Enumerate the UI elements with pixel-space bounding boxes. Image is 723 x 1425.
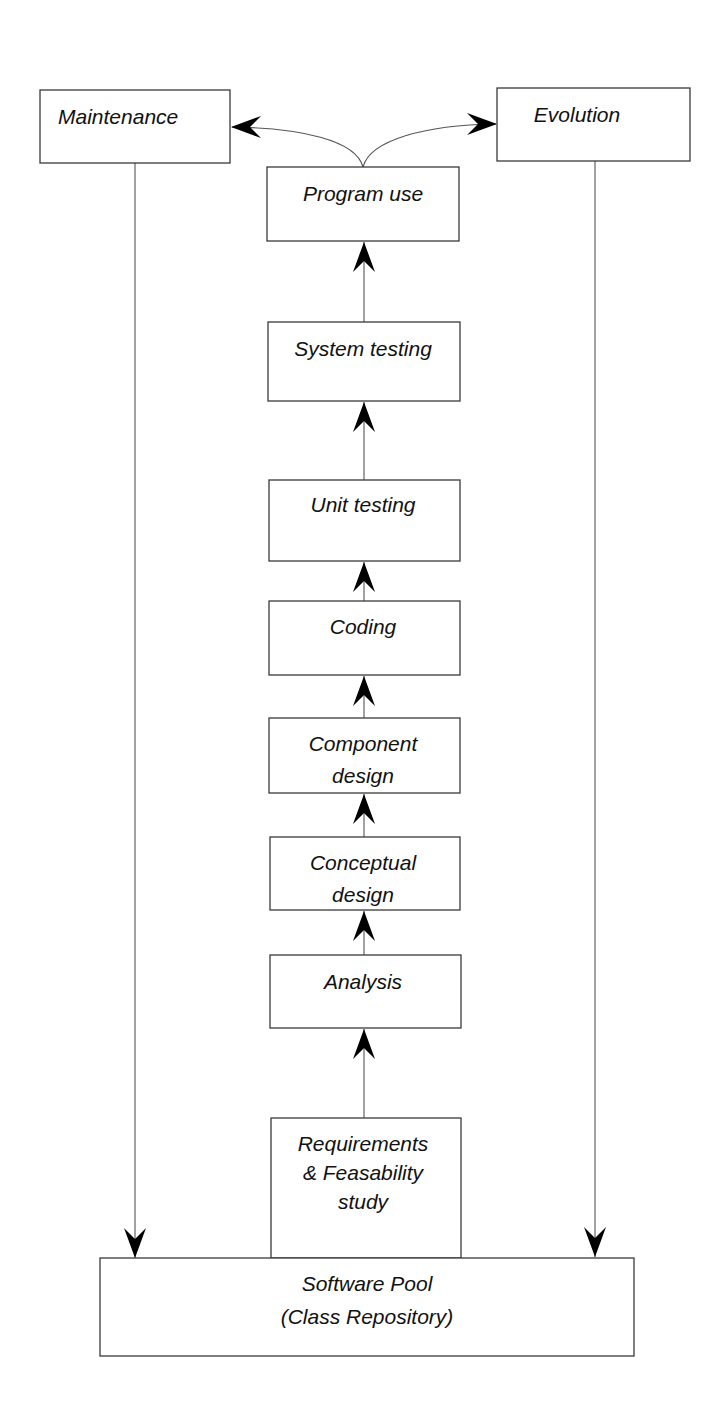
node-label: Requirements	[298, 1132, 429, 1155]
node-box	[268, 322, 460, 401]
arrowhead-icon	[467, 113, 497, 135]
edge-program-use-to-evolution	[363, 113, 497, 167]
node-maintenance: Maintenance	[40, 90, 230, 163]
node-label: Conceptual	[310, 851, 418, 874]
node-label: Analysis	[322, 970, 403, 993]
node-label: Unit testing	[310, 493, 415, 516]
edge-maintenance-to-software-pool	[124, 163, 146, 1258]
edge-requirements-to-analysis	[353, 1029, 375, 1118]
node-label: Component	[309, 732, 419, 755]
node-unit-testing: Unit testing	[269, 480, 460, 561]
node-requirements: Requirements& Feasabilitystudy	[271, 1118, 461, 1258]
node-system-testing: System testing	[268, 322, 460, 401]
node-box	[269, 601, 460, 675]
nodes-layer: MaintenanceEvolutionProgram useSystem te…	[40, 88, 690, 1356]
node-analysis: Analysis	[270, 955, 461, 1028]
node-label: System testing	[294, 337, 432, 360]
node-label: (Class Repository)	[281, 1305, 454, 1328]
edge-system-testing-to-program-use	[353, 242, 375, 322]
edges-layer	[124, 113, 606, 1258]
node-label: design	[332, 764, 394, 787]
node-label: Program use	[303, 182, 423, 205]
software-lifecycle-diagram: MaintenanceEvolutionProgram useSystem te…	[0, 0, 723, 1425]
node-label: Maintenance	[58, 105, 178, 128]
node-label: Evolution	[534, 103, 620, 126]
node-conceptual-design: Conceptualdesign	[270, 837, 460, 910]
arrowhead-icon	[231, 116, 261, 138]
edge-unit-testing-to-system-testing	[353, 402, 375, 480]
node-evolution: Evolution	[497, 88, 690, 161]
edge-evolution-to-software-pool	[584, 161, 606, 1257]
node-label: & Feasability	[303, 1161, 425, 1184]
node-label: study	[338, 1190, 390, 1213]
edge-coding-to-unit-testing	[353, 562, 375, 601]
node-label: design	[332, 883, 394, 906]
node-coding: Coding	[269, 601, 460, 675]
edge-component-design-to-coding	[353, 676, 375, 718]
edge-conceptual-design-to-component-design	[353, 794, 375, 837]
node-software-pool: Software Pool(Class Repository)	[100, 1258, 634, 1356]
node-program-use: Program use	[267, 167, 459, 241]
node-label: Coding	[330, 615, 397, 638]
edge-analysis-to-conceptual-design	[353, 911, 375, 955]
edge-program-use-to-maintenance	[231, 116, 363, 167]
node-label: Software Pool	[302, 1272, 434, 1295]
node-component-design: Componentdesign	[269, 718, 460, 793]
